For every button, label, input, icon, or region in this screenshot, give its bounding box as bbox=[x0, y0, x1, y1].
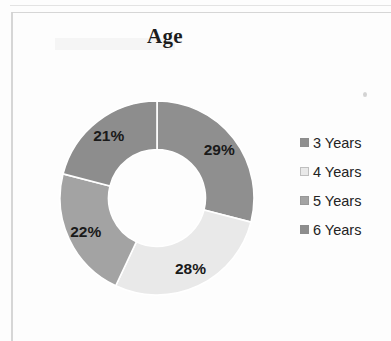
legend-item-label: 3 Years bbox=[313, 135, 361, 151]
donut-slice-value-label: 28% bbox=[175, 260, 206, 277]
legend-item-label: 6 Years bbox=[313, 222, 361, 238]
page-frame-top-border bbox=[12, 12, 391, 13]
chart-page: Age 29%28%22%21% 3 Years4 Years5 Years6 … bbox=[0, 0, 391, 341]
donut-slice-value-label: 21% bbox=[93, 127, 124, 144]
legend-swatch-icon bbox=[300, 196, 309, 205]
page-frame-left-border bbox=[11, 12, 13, 341]
donut-slice-group bbox=[60, 101, 254, 295]
legend-item[interactable]: 4 Years bbox=[300, 157, 390, 186]
legend-swatch-icon bbox=[300, 167, 309, 176]
scan-artifact-top-rule bbox=[10, 5, 391, 6]
donut-slice-value-label: 22% bbox=[70, 223, 101, 240]
donut-chart: 29%28%22%21% bbox=[57, 98, 257, 298]
chart-title: Age bbox=[0, 24, 330, 49]
legend-item-label: 5 Years bbox=[313, 193, 361, 209]
donut-slice[interactable] bbox=[157, 101, 254, 222]
legend-swatch-icon bbox=[300, 138, 309, 147]
legend-swatch-icon bbox=[300, 225, 309, 234]
donut-slice-value-label: 29% bbox=[204, 141, 235, 158]
legend-item-label: 4 Years bbox=[313, 164, 361, 180]
legend-item[interactable]: 6 Years bbox=[300, 215, 390, 244]
scan-artifact-speck bbox=[363, 92, 367, 97]
chart-legend: 3 Years4 Years5 Years6 Years bbox=[300, 128, 390, 244]
legend-item[interactable]: 5 Years bbox=[300, 186, 390, 215]
donut-slice[interactable] bbox=[116, 210, 251, 295]
legend-item[interactable]: 3 Years bbox=[300, 128, 390, 157]
donut-chart-svg: 29%28%22%21% bbox=[57, 98, 257, 298]
